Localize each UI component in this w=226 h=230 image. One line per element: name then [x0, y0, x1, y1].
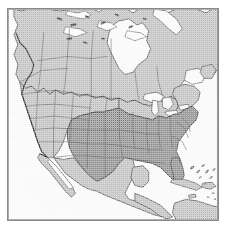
screenshot-root [0, 0, 226, 230]
map-figure-frame [7, 8, 219, 221]
north-america-map [8, 9, 218, 220]
jamaica-island [188, 194, 196, 198]
